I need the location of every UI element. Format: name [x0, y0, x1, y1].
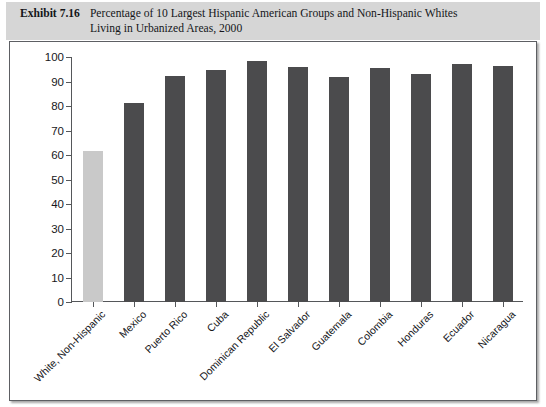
x-axis-tick-mark [503, 302, 504, 307]
bar [370, 68, 390, 302]
exhibit-number-label: Exhibit 7.16 [20, 6, 90, 21]
y-axis-tick-label: 100 [12, 51, 64, 63]
bar-series [72, 57, 523, 302]
exhibit-title-line-1: Percentage of 10 Largest Hispanic Americ… [90, 6, 530, 21]
bar [247, 61, 267, 302]
x-axis-tick-mark [339, 302, 340, 307]
exhibit-title: Percentage of 10 Largest Hispanic Americ… [90, 6, 530, 36]
x-axis-tick-mark [298, 302, 299, 307]
bar [206, 70, 226, 302]
exhibit-caption-band: Exhibit 7.16 Percentage of 10 Largest Hi… [6, 2, 540, 40]
y-axis-tick-label: 40 [12, 198, 64, 210]
x-axis-tick-labels: White, Non-HispanicMexicoPuerto RicoCuba… [72, 308, 532, 402]
y-axis-tick-label: 80 [12, 100, 64, 112]
x-axis-tick-mark [462, 302, 463, 307]
y-axis-tick-labels: 0102030405060708090100 [10, 42, 64, 400]
bar [329, 77, 349, 302]
bar [411, 74, 431, 302]
x-axis-tick-mark [134, 302, 135, 307]
y-axis-tick-label: 10 [12, 272, 64, 284]
x-axis-tick-mark [175, 302, 176, 307]
x-axis-tick-mark [216, 302, 217, 307]
bar [493, 66, 513, 302]
y-axis-tick-label: 30 [12, 223, 64, 235]
bar [83, 151, 103, 302]
y-axis-tick-label: 50 [12, 174, 64, 186]
exhibit-title-line-2: Living in Urbanized Areas, 2000 [90, 21, 530, 36]
y-axis-tick-label: 60 [12, 149, 64, 161]
bar [165, 76, 185, 302]
plot-area: 0102030405060708090100 White, Non-Hispan… [10, 42, 536, 400]
bar [288, 67, 308, 302]
x-axis-tick-mark [93, 302, 94, 307]
chart-panel: 0102030405060708090100 White, Non-Hispan… [9, 41, 537, 401]
x-axis-ticks [72, 302, 523, 307]
y-axis-tick-label: 70 [12, 125, 64, 137]
x-axis-tick-mark [421, 302, 422, 307]
bar [452, 64, 472, 302]
y-axis-tick-label: 0 [12, 296, 64, 308]
x-axis-tick-mark [257, 302, 258, 307]
exhibit-figure: Exhibit 7.16 Percentage of 10 Largest Hi… [0, 0, 546, 407]
x-axis-tick-mark [380, 302, 381, 307]
y-axis-tick-label: 20 [12, 247, 64, 259]
y-axis-tick-label: 90 [12, 76, 64, 88]
bar [124, 103, 144, 302]
